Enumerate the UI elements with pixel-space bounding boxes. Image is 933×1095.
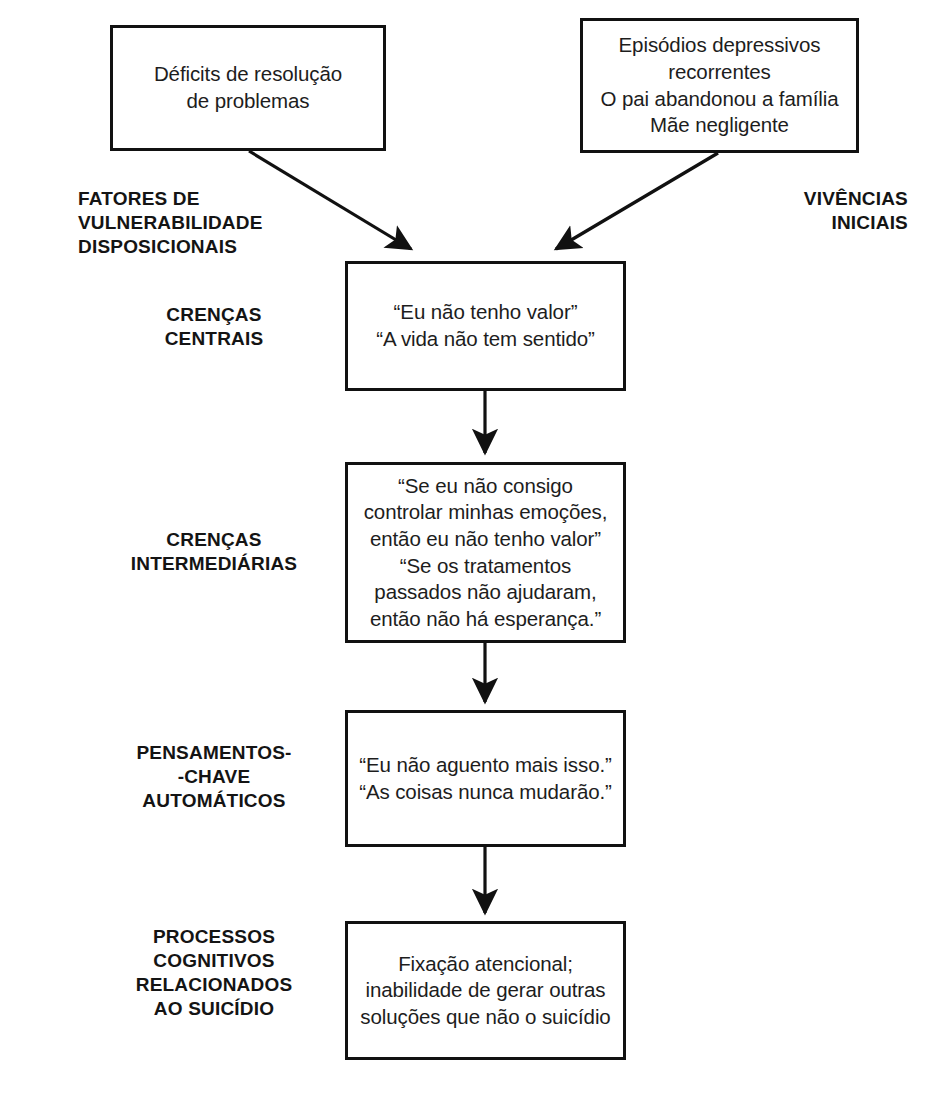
node-suicide-cognitive-processes-text: Fixação atencional; inabilidade de gerar… bbox=[350, 951, 620, 1031]
cognitive-model-diagram: Déficits de resolução de problemas Episó… bbox=[0, 0, 933, 1095]
label-intermediate-beliefs: CRENÇAS INTERMEDIÁRIAS bbox=[105, 528, 323, 576]
node-automatic-thoughts-text: “Eu não aguento mais isso.” “As coisas n… bbox=[349, 752, 622, 805]
node-early-experiences: Episódios depressivos recorrentes O pai … bbox=[580, 18, 859, 153]
node-suicide-cognitive-processes: Fixação atencional; inabilidade de gerar… bbox=[345, 921, 626, 1060]
label-core-beliefs: CRENÇAS CENTRAIS bbox=[105, 303, 323, 351]
label-suicide-cognitive-processes: PROCESSOS COGNITIVOS RELACIONADOS AO SUI… bbox=[105, 925, 323, 1021]
node-intermediate-beliefs: “Se eu não consigo controlar minhas emoç… bbox=[345, 462, 626, 643]
node-core-beliefs: “Eu não tenho valor” “A vida não tem sen… bbox=[345, 261, 626, 391]
node-automatic-thoughts: “Eu não aguento mais isso.” “As coisas n… bbox=[345, 710, 626, 847]
label-early-experiences: VIVÊNCIAS INICIAIS bbox=[655, 187, 908, 235]
node-dispositional-vulnerability-text: Déficits de resolução de problemas bbox=[144, 61, 352, 114]
label-dispositional-vulnerability-factors: FATORES DE VULNERABILIDADE DISPOSICIONAI… bbox=[78, 187, 338, 259]
node-intermediate-beliefs-text: “Se eu não consigo controlar minhas emoç… bbox=[354, 473, 618, 633]
node-early-experiences-text: Episódios depressivos recorrentes O pai … bbox=[591, 32, 849, 139]
node-dispositional-vulnerability: Déficits de resolução de problemas bbox=[110, 25, 386, 151]
label-automatic-key-thoughts: PENSAMENTOS- -CHAVE AUTOMÁTICOS bbox=[105, 741, 323, 813]
node-core-beliefs-text: “Eu não tenho valor” “A vida não tem sen… bbox=[366, 299, 605, 352]
